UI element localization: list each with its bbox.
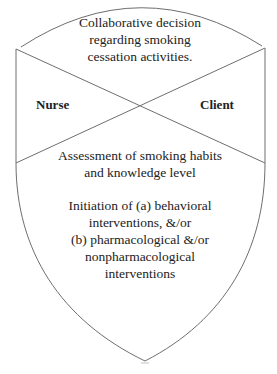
top-text-line: cessation activities. [40,48,240,65]
initiation-text-line: interventions [40,265,240,282]
collaborative-decision-text: Collaborative decision regarding smoking… [40,14,240,65]
initiation-text-line: (b) pharmacological &/or [40,231,240,248]
assessment-text-line: Assessment of smoking habits [40,147,240,164]
initiation-text-line: interventions, &/or [40,214,240,231]
client-label: Client [200,96,260,113]
initiation-text-line: Initiation of (a) behavioral [40,197,240,214]
top-text-line: Collaborative decision [40,14,240,31]
assessment-text: Assessment of smoking habits and knowled… [40,147,240,181]
nurse-label: Nurse [36,96,96,113]
assessment-text-line: and knowledge level [40,164,240,181]
initiation-text-line: nonpharmacological [40,248,240,265]
top-text-line: regarding smoking [40,31,240,48]
initiation-text: Initiation of (a) behavioral interventio… [40,197,240,282]
